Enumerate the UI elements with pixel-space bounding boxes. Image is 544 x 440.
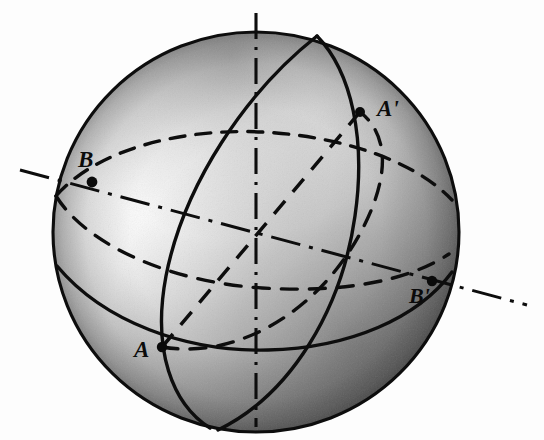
label-point-B-prime: B' [409, 285, 430, 307]
point-B [87, 177, 98, 188]
point-A-prime [355, 107, 365, 117]
label-point-A: A [134, 338, 150, 361]
sphere-diagram-svg [0, 0, 544, 440]
sphere-figure: A A' B B' [0, 0, 544, 440]
label-point-B: B [78, 148, 94, 171]
point-A [157, 342, 167, 352]
label-point-A-prime: A' [377, 97, 399, 120]
